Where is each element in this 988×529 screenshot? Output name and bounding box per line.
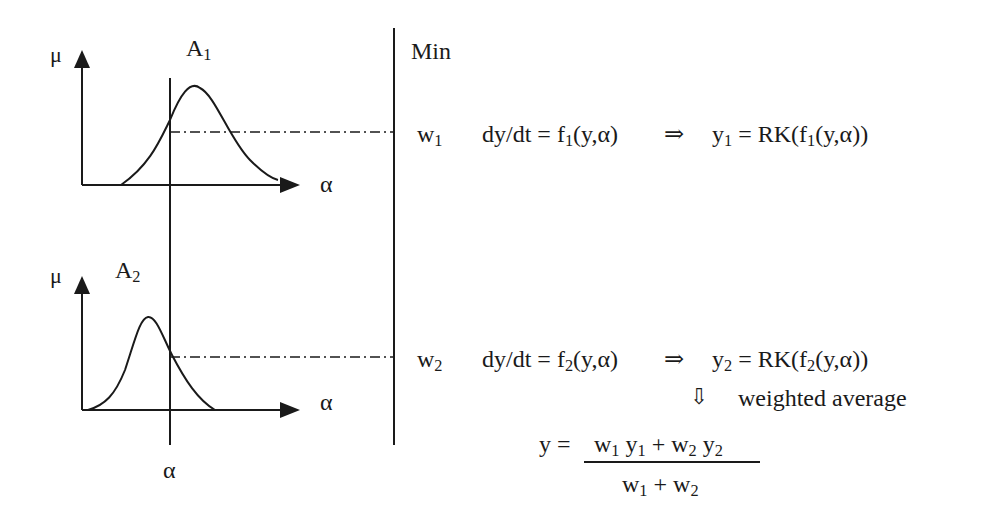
rule-2-solution: y2 = RK(f2(y,α))	[712, 347, 868, 371]
mu-label-1: μ	[50, 44, 62, 66]
membership-curve-a1	[121, 86, 278, 185]
membership-curve-a2	[88, 317, 215, 410]
implies-arrow-icon-2: ⇒	[664, 347, 684, 371]
implies-arrow-icon-1: ⇒	[664, 122, 684, 146]
fraction-bar	[584, 461, 760, 463]
panel-a1-axes	[74, 50, 300, 193]
fuzzy-set-label-a1: A1	[186, 36, 212, 60]
x-axis-arrow-icon	[280, 177, 300, 193]
panel-a2-axes	[74, 276, 300, 418]
min-operator-label: Min	[411, 39, 451, 63]
result-numerator: w1 y1 + w2 y2	[594, 432, 723, 456]
result-denominator: w1 + w2	[622, 472, 699, 496]
aggregation-label: weighted average	[738, 386, 907, 410]
diagram-graphics	[0, 0, 988, 529]
alpha-axis-label-2: α	[320, 390, 333, 414]
down-arrow-icon: ⇩	[690, 386, 708, 408]
rule-1-equation: dy/dt = f1(y,α)	[482, 122, 618, 146]
weight-w2: w2	[417, 347, 443, 371]
fuzzy-set-label-a2: A2	[115, 258, 141, 282]
weight-w1: w1	[417, 122, 443, 146]
alpha-axis-label-1: α	[320, 172, 333, 196]
alpha-input-label: α	[163, 458, 176, 482]
x-axis-arrow-icon	[280, 402, 300, 418]
mu-label-2: μ	[50, 265, 62, 287]
result-lhs: y =	[539, 432, 571, 456]
rule-2-equation: dy/dt = f2(y,α)	[482, 347, 618, 371]
rule-1-solution: y1 = RK(f1(y,α))	[712, 122, 868, 146]
y-axis-arrow-icon	[74, 50, 90, 68]
y-axis-arrow-icon	[74, 276, 90, 294]
